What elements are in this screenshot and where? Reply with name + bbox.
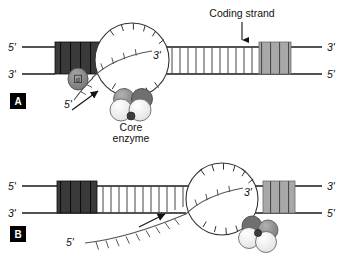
core-enzyme-a [110,89,153,122]
rna-direction-arrow-b [139,214,165,227]
rna-transcript-b: 5' [66,214,186,250]
strand-label-a-bottom-right: 5' [327,68,336,80]
strand-label-b-bottom-right: 5' [327,207,336,219]
terminator-region-a [259,42,291,74]
terminator-region-b [263,181,295,213]
coding-strand-label: Coding strand [209,7,275,19]
coding-strand-annotation: Coding strand [209,7,275,40]
core-enzyme-b [239,216,279,253]
transcription-figure: Coding strand [0,0,343,257]
base-pair-rungs-b [103,186,183,213]
rna-3prime-label-b: 3' [244,186,253,198]
panel-b: 3' 5' [8,163,336,253]
rna-5prime-label-b: 5' [66,236,75,248]
sigma-factor-a: σ [68,68,88,90]
core-enzyme-label-a: Core enzyme [113,121,150,144]
rna-5prime-label-a: 5' [64,98,73,110]
core-enzyme-label-line2: enzyme [113,132,150,144]
strand-label-a-bottom-left: 3' [8,68,17,80]
strand-label-b-bottom-left: 3' [8,207,17,219]
strand-label-b-top-right: 3' [327,180,336,192]
rna-3prime-label-a: 3' [153,49,162,61]
strand-label-a-top-left: 5' [8,41,17,53]
transcription-bubble-a: 3' [92,23,169,97]
sigma-symbol-label: σ [76,75,80,84]
promoter-region-b [57,181,97,213]
base-pair-rungs-a [172,47,252,74]
panel-a: Coding strand [8,7,336,144]
panel-badge-a-letter: A [14,96,21,107]
panel-badge-b-letter: B [14,229,21,240]
diagram-canvas: Coding strand [0,0,343,257]
strand-label-b-top-left: 5' [8,180,17,192]
panel-badge-a: A [10,93,26,109]
strand-label-a-top-right: 3' [327,41,336,53]
panel-badge-b: B [10,226,26,242]
